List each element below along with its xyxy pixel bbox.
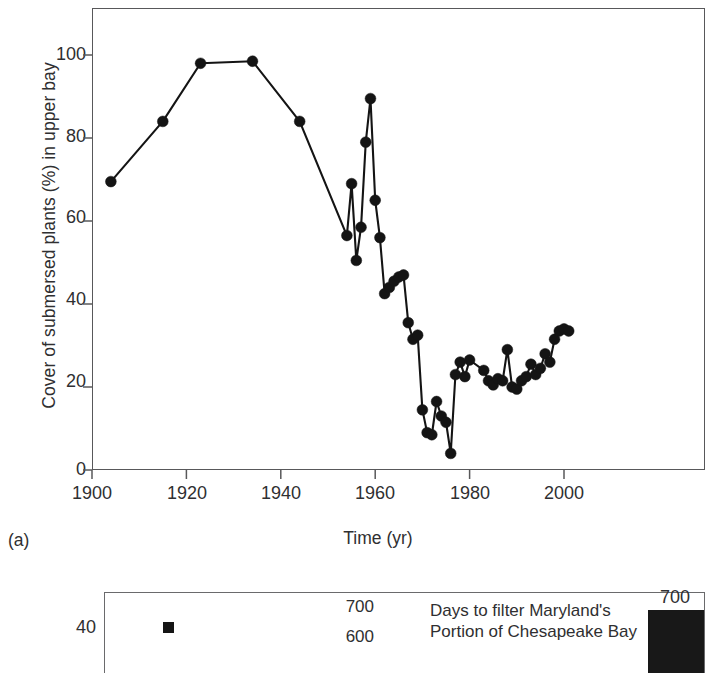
x-tick-label-1920: 1920: [147, 483, 227, 504]
panel-b-bar-value-label: 700: [640, 587, 710, 608]
y-tick-label-60: 60: [28, 207, 86, 228]
x-tick-label-2000: 2000: [524, 483, 604, 504]
x-tick-label-1980: 1980: [430, 483, 510, 504]
panel-b-y-tick-label-40: 40: [48, 617, 96, 638]
panel-b-legend-tick-700: 700: [322, 597, 374, 617]
panel-b-bar: [648, 610, 704, 673]
x-tick-label-1900: 1900: [52, 483, 132, 504]
y-tick-label-40: 40: [28, 289, 86, 310]
x-tick-label-1940: 1940: [241, 483, 321, 504]
panel-b-legend-text: Days to filter Maryland's Portion of Che…: [430, 601, 645, 642]
panel-a: Cover of submersed plants (%) in upper b…: [0, 0, 719, 580]
plot-a-frame: [92, 8, 705, 470]
x-axis-label: Time (yr): [238, 528, 518, 549]
x-tick-label-1960: 1960: [335, 483, 415, 504]
y-tick-label-20: 20: [28, 371, 86, 392]
panel-b-data-marker: [163, 622, 174, 633]
panel-b: 40 700 600 Days to filter Maryland's Por…: [0, 583, 719, 673]
panel-a-label: (a): [8, 530, 29, 551]
y-tick-label-100: 100: [28, 44, 86, 65]
y-tick-label-0: 0: [28, 459, 86, 480]
figure-container: Cover of submersed plants (%) in upper b…: [0, 0, 719, 673]
panel-b-legend-tick-600: 600: [322, 627, 374, 647]
y-tick-label-80: 80: [28, 126, 86, 147]
